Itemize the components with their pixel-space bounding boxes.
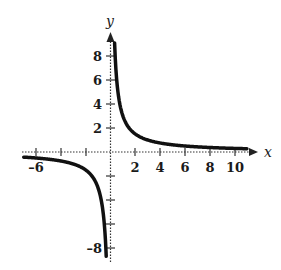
hyperbola-graph: –6 2 4 6 8 10 8 6 4 2 –8 x y	[0, 0, 281, 270]
x-tick-label: 10	[226, 160, 244, 175]
curve-right-branch	[115, 43, 247, 149]
x-tick-label: 4	[155, 160, 164, 175]
y-tick-label: 4	[93, 97, 102, 112]
x-tick-label: –6	[28, 160, 44, 175]
x-tick-label: 8	[205, 160, 214, 175]
y-tick-label: 8	[93, 49, 102, 64]
x-axis-arrow-icon	[249, 148, 258, 156]
x-tick-label: 2	[130, 160, 139, 175]
x-axis-label: x	[264, 144, 272, 160]
y-tick-label: –8	[86, 241, 102, 256]
x-tick-label: 6	[180, 160, 189, 175]
y-tick-label: 6	[93, 73, 102, 88]
y-axis-label: y	[105, 13, 115, 29]
y-axis-arrow-icon	[107, 32, 115, 42]
y-tick-label: 2	[93, 121, 102, 136]
